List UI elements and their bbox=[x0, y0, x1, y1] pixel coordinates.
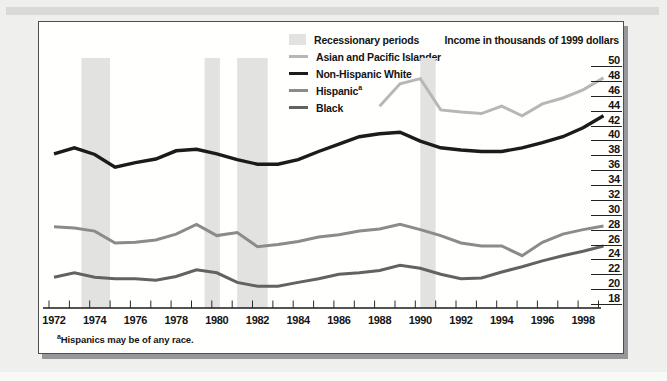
x-label-1996: 1996 bbox=[522, 314, 562, 326]
footnote-text: Hispanics may be of any race. bbox=[61, 334, 194, 345]
x-label-1980: 1980 bbox=[197, 314, 237, 326]
line-non-hispanic-white bbox=[54, 116, 604, 167]
y-tick-44: 44 bbox=[591, 99, 622, 112]
line-asian-and-pacific-islander bbox=[380, 78, 604, 116]
y-tick-42: 42 bbox=[591, 114, 622, 127]
x-label-1978: 1978 bbox=[156, 314, 196, 326]
x-label-1982: 1982 bbox=[238, 314, 278, 326]
y-tick-48: 48 bbox=[591, 69, 622, 82]
x-label-1976: 1976 bbox=[115, 314, 155, 326]
scanned-page: { "chart_data": { "type": "line", "unit_… bbox=[0, 0, 667, 381]
y-tick-24: 24 bbox=[591, 247, 622, 260]
chart-figure: Recessionary periodsAsian and Pacific Is… bbox=[38, 21, 624, 354]
footnote: aHispanics may be of any race. bbox=[57, 333, 194, 345]
plot-area bbox=[43, 50, 601, 312]
x-label-1984: 1984 bbox=[278, 314, 318, 326]
axis-unit-label: Income in thousands of 1999 dollars bbox=[445, 34, 619, 46]
x-label-1986: 1986 bbox=[319, 314, 359, 326]
y-tick-46: 46 bbox=[591, 84, 622, 97]
x-label-1994: 1994 bbox=[482, 314, 522, 326]
x-label-1974: 1974 bbox=[75, 314, 115, 326]
y-tick-28: 28 bbox=[591, 218, 622, 231]
legend-label-recessionary-periods: Recessionary periods bbox=[314, 34, 419, 46]
recession-band bbox=[237, 58, 268, 308]
y-tick-18: 18 bbox=[591, 292, 622, 305]
y-tick-40: 40 bbox=[591, 128, 622, 141]
x-label-1992: 1992 bbox=[441, 314, 481, 326]
page-bottom-strip bbox=[0, 372, 667, 381]
x-label-1972: 1972 bbox=[34, 314, 74, 326]
line-hispanic bbox=[54, 224, 604, 255]
legend-item-recessionary-periods: Recessionary periods bbox=[289, 33, 441, 46]
page-edge-strip bbox=[6, 7, 659, 15]
y-tick-36: 36 bbox=[591, 158, 622, 171]
y-tick-22: 22 bbox=[591, 262, 622, 275]
x-label-1998: 1998 bbox=[563, 314, 603, 326]
y-tick-30: 30 bbox=[591, 203, 622, 216]
legend-swatch-recessionary-periods bbox=[289, 34, 306, 45]
y-tick-32: 32 bbox=[591, 188, 622, 201]
y-tick-20: 20 bbox=[591, 277, 622, 290]
x-label-1990: 1990 bbox=[400, 314, 440, 326]
line-black bbox=[54, 246, 604, 286]
y-tick-26: 26 bbox=[591, 233, 622, 246]
x-label-1988: 1988 bbox=[360, 314, 400, 326]
y-tick-50: 50 bbox=[591, 54, 622, 67]
recession-band bbox=[82, 58, 111, 308]
y-tick-38: 38 bbox=[591, 143, 622, 156]
y-tick-34: 34 bbox=[591, 173, 622, 186]
